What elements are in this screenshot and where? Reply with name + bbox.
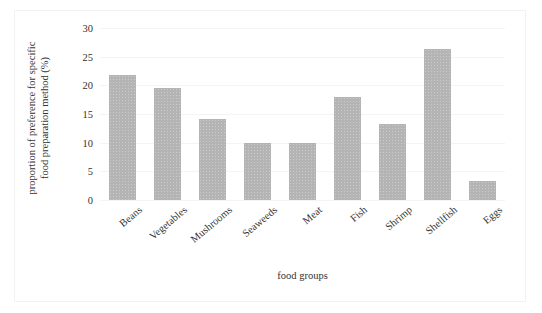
bar-slot — [100, 28, 145, 200]
y-axis-title-line-2: food preparation method (%) — [38, 13, 51, 223]
plot-area: 051015202530 — [100, 28, 505, 200]
y-axis-tick-label: 15 — [83, 109, 94, 120]
x-axis-tick-label: Vegetables — [147, 204, 189, 242]
bar-slot — [415, 28, 460, 200]
bar-slot — [190, 28, 235, 200]
bar — [289, 143, 317, 200]
y-axis-title-line-1: proportion of preference for specific — [25, 13, 38, 223]
bar — [109, 75, 137, 200]
x-axis-tick-label: Fish — [348, 204, 369, 224]
bar-series — [100, 28, 505, 200]
y-axis-tick-label: 10 — [83, 137, 94, 148]
bar — [379, 124, 407, 200]
bar — [334, 97, 362, 200]
bar-slot — [370, 28, 415, 200]
bar-slot — [325, 28, 370, 200]
bar — [199, 119, 227, 200]
bar-slot — [280, 28, 325, 200]
x-axis-tick-label: Seaweeds — [240, 204, 279, 239]
bar-chart-figure: proportion of preference for specific fo… — [0, 0, 542, 313]
y-axis-title: proportion of preference for specific fo… — [25, 13, 51, 223]
y-axis-tick-label: 30 — [83, 23, 94, 34]
bar-slot — [460, 28, 505, 200]
x-axis-tick-label: Shellfish — [423, 204, 459, 236]
bar — [424, 49, 452, 200]
x-axis-tick-label: Shrimp — [383, 204, 414, 232]
y-axis-tick-label: 25 — [83, 51, 94, 62]
x-axis-tick-label: Beans — [117, 204, 144, 229]
x-axis-tick-label: Eggs — [480, 204, 503, 226]
x-axis-tick-label: Mushrooms — [188, 204, 234, 245]
bar-slot — [235, 28, 280, 200]
y-axis-tick-label: 20 — [83, 80, 94, 91]
x-axis-ticks: BeansVegetablesMushroomsSeaweedsMeatFish… — [100, 200, 505, 262]
x-axis-tick-label: Meat — [300, 204, 324, 226]
bar — [154, 88, 182, 200]
bar — [244, 143, 272, 200]
bar — [469, 181, 497, 200]
bar-slot — [145, 28, 190, 200]
y-axis-tick-label: 5 — [88, 166, 93, 177]
x-axis-title: food groups — [100, 270, 505, 281]
y-axis-tick-label: 0 — [88, 195, 93, 206]
